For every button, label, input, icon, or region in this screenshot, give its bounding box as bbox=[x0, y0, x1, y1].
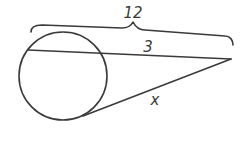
secant-line bbox=[28, 50, 231, 59]
tangent-label: x bbox=[150, 91, 160, 109]
measurement-brace bbox=[31, 22, 233, 45]
secant-tangent-diagram: 12 3 x bbox=[0, 0, 248, 143]
circle bbox=[19, 32, 107, 120]
external-segment-label: 3 bbox=[143, 38, 153, 56]
whole-secant-label: 12 bbox=[123, 4, 142, 22]
